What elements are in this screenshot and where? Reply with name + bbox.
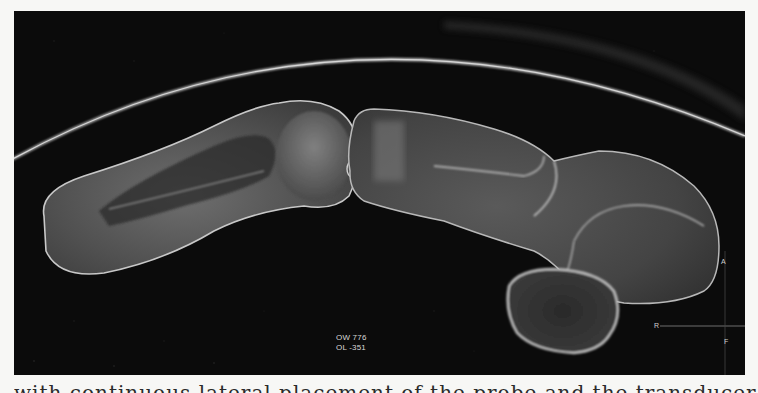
readout-line-2: OL -351 bbox=[336, 343, 367, 353]
readout-text: OW 776 OL -351 bbox=[336, 333, 367, 353]
ultrasound-graphic bbox=[14, 11, 745, 375]
marker-f: F bbox=[724, 338, 728, 346]
marker-r: R bbox=[654, 322, 659, 330]
ultrasound-image: OW 776 OL -351 A R F bbox=[14, 11, 745, 375]
structure-lower bbox=[508, 269, 618, 353]
figure-caption: with continuous lateral placement of the… bbox=[14, 381, 758, 393]
readout-line-1: OW 776 bbox=[336, 333, 367, 343]
document-page: OW 776 OL -351 A R F with continuous lat… bbox=[0, 0, 758, 393]
marker-a: A bbox=[721, 258, 726, 266]
caption-text: with continuous lateral placement of the… bbox=[14, 381, 758, 393]
